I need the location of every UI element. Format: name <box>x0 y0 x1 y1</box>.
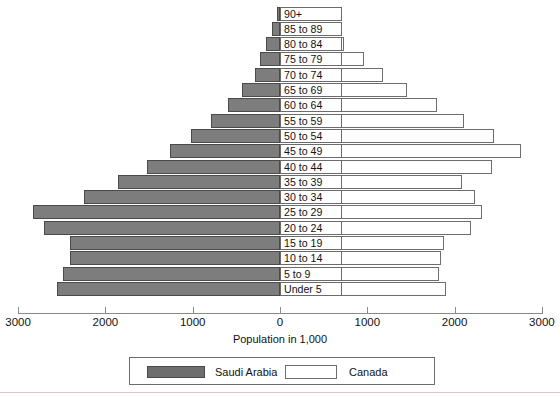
x-axis-tick <box>193 307 194 314</box>
pyramid-row: 40 to 44 <box>0 159 560 174</box>
bar-saudi-arabia <box>211 114 280 128</box>
bar-saudi-arabia <box>147 160 280 174</box>
x-axis-tick-label: 0 <box>277 316 283 328</box>
chart-legend: Saudi Arabia Canada <box>129 357 435 385</box>
bar-saudi-arabia <box>44 221 280 235</box>
age-group-label: 55 to 59 <box>280 114 342 128</box>
x-axis-tick <box>280 307 281 314</box>
x-axis-tick <box>455 307 456 314</box>
age-group-label: 75 to 79 <box>280 52 342 66</box>
pyramid-row: 55 to 59 <box>0 113 560 128</box>
age-group-label: 40 to 44 <box>280 160 342 174</box>
pyramid-row: 85 to 89 <box>0 21 560 36</box>
x-axis-title: Population in 1,000 <box>0 333 560 345</box>
age-group-label: 90+ <box>280 7 342 21</box>
bar-saudi-arabia <box>57 282 280 296</box>
legend-swatch-saudi-arabia <box>147 366 205 378</box>
pyramid-row: 45 to 49 <box>0 144 560 159</box>
bar-saudi-arabia <box>63 267 280 281</box>
age-group-label: 65 to 69 <box>280 83 342 97</box>
x-axis-tick-label: 2000 <box>442 316 468 328</box>
x-axis-tick <box>542 307 543 314</box>
bar-saudi-arabia <box>272 22 280 36</box>
age-group-label: 35 to 39 <box>280 175 342 189</box>
age-group-label: Under 5 <box>280 282 342 296</box>
bar-saudi-arabia <box>228 98 280 112</box>
pyramid-row: 65 to 69 <box>0 83 560 98</box>
x-axis-tick-label: 1000 <box>180 316 206 328</box>
age-group-label: 50 to 54 <box>280 129 342 143</box>
pyramid-row: 60 to 64 <box>0 98 560 113</box>
pyramid-row: 35 to 39 <box>0 174 560 189</box>
bar-saudi-arabia <box>118 175 280 189</box>
bar-saudi-arabia <box>242 83 280 97</box>
x-axis-tick <box>105 307 106 314</box>
pyramid-row: 50 to 54 <box>0 128 560 143</box>
bar-saudi-arabia <box>255 68 280 82</box>
footer-divider <box>0 392 560 393</box>
pyramid-row: 20 to 24 <box>0 220 560 235</box>
x-axis-tick <box>367 307 368 314</box>
pyramid-row: 75 to 79 <box>0 52 560 67</box>
bar-saudi-arabia <box>266 37 280 51</box>
x-axis-tick-label: 2000 <box>93 316 119 328</box>
x-axis-tick-label: 3000 <box>5 316 31 328</box>
pyramid-row: 80 to 84 <box>0 37 560 52</box>
plot-area: 90+85 to 8980 to 8475 to 7970 to 7465 to… <box>0 6 560 306</box>
age-group-label: 80 to 84 <box>280 37 342 51</box>
bar-saudi-arabia <box>260 52 280 66</box>
legend-swatch-canada <box>285 365 337 379</box>
legend-label-saudi-arabia: Saudi Arabia <box>215 366 277 378</box>
pyramid-row: 70 to 74 <box>0 67 560 82</box>
age-group-label: 15 to 19 <box>280 236 342 250</box>
x-axis-tick-label: 1000 <box>355 316 381 328</box>
bar-saudi-arabia <box>170 144 280 158</box>
pyramid-row: 30 to 34 <box>0 190 560 205</box>
pyramid-row: 15 to 19 <box>0 236 560 251</box>
age-group-label: 45 to 49 <box>280 144 342 158</box>
legend-label-canada: Canada <box>349 366 388 378</box>
bar-saudi-arabia <box>84 190 280 204</box>
age-group-label: 70 to 74 <box>280 68 342 82</box>
pyramid-row: 25 to 29 <box>0 205 560 220</box>
age-group-label: 25 to 29 <box>280 205 342 219</box>
population-pyramid-chart: 90+85 to 8980 to 8475 to 7970 to 7465 to… <box>0 0 560 397</box>
x-axis-tick-label: 3000 <box>529 316 555 328</box>
age-group-label: 10 to 14 <box>280 251 342 265</box>
pyramid-row: 10 to 14 <box>0 251 560 266</box>
age-group-label: 5 to 9 <box>280 267 342 281</box>
age-group-label: 60 to 64 <box>280 98 342 112</box>
pyramid-row: Under 5 <box>0 281 560 296</box>
age-group-label: 20 to 24 <box>280 221 342 235</box>
age-group-label: 85 to 89 <box>280 22 342 36</box>
pyramid-row: 90+ <box>0 6 560 21</box>
age-group-label: 30 to 34 <box>280 190 342 204</box>
pyramid-row: 5 to 9 <box>0 266 560 281</box>
bar-saudi-arabia <box>70 251 280 265</box>
bar-saudi-arabia <box>70 236 280 250</box>
bar-saudi-arabia <box>191 129 280 143</box>
bar-saudi-arabia <box>33 205 280 219</box>
x-axis-tick <box>18 307 19 314</box>
